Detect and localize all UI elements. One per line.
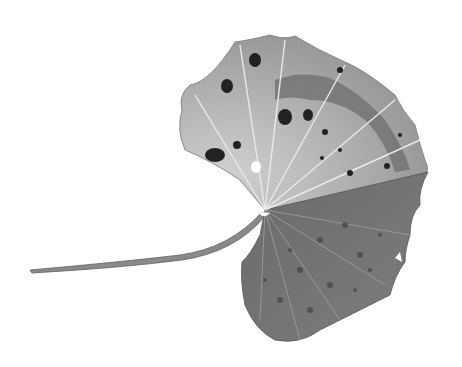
leaf-stem <box>30 212 266 273</box>
leaf-drawing <box>0 0 462 367</box>
leaf-hole <box>251 161 261 173</box>
artwork <box>0 0 462 367</box>
